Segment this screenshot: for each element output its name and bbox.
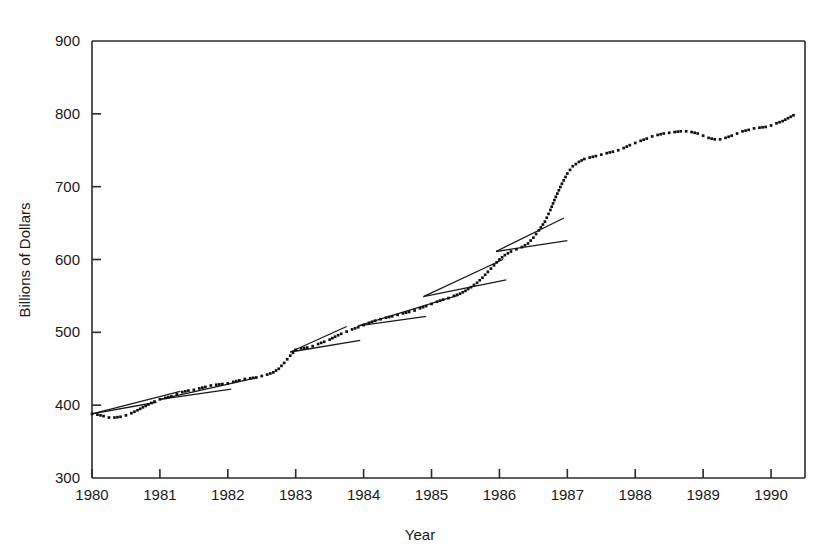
data-point-dot [133, 410, 136, 413]
data-point-dot [574, 163, 577, 166]
data-point-dot [306, 346, 309, 349]
data-point-dot [269, 372, 272, 375]
data-point-dot [294, 348, 297, 351]
data-point-dot [690, 131, 693, 134]
data-point-dot [413, 309, 416, 312]
data-point-dot [357, 326, 360, 329]
data-point-dot [362, 324, 365, 327]
data-point-dot [535, 233, 538, 236]
data-point-dot [328, 338, 331, 341]
data-point-dot [736, 132, 739, 135]
data-point-dot [515, 248, 518, 251]
data-point-dot [561, 182, 564, 185]
x-tick-label: 1988 [619, 486, 652, 503]
data-point-dot [685, 130, 688, 133]
data-point-dot [529, 239, 532, 242]
data-point-dot [442, 298, 445, 301]
data-point-dot [564, 176, 567, 179]
data-point-dot [130, 412, 133, 415]
data-point-dot [662, 132, 665, 135]
data-point-dot [537, 229, 540, 232]
data-point-dot [595, 155, 598, 158]
data-point-dot [753, 127, 756, 130]
x-tick-label: 1982 [211, 486, 244, 503]
data-point-dot [741, 130, 744, 133]
data-point-dot [99, 414, 102, 417]
data-point-dot [215, 383, 218, 386]
data-point-dot [243, 378, 246, 381]
data-point-dot [405, 311, 408, 314]
data-point-dot [617, 149, 620, 152]
data-point-dot [634, 142, 637, 145]
data-point-dot [467, 288, 470, 291]
data-point-dot [510, 250, 513, 253]
data-point-dot [520, 246, 523, 249]
data-point-dot [396, 314, 399, 317]
data-point-dot [792, 114, 795, 117]
data-point-dot [622, 147, 625, 150]
data-point-dot [532, 236, 535, 239]
data-point-dot [710, 137, 713, 140]
data-point-dot [249, 377, 252, 380]
data-point-dot [744, 129, 747, 132]
data-point-dot [591, 155, 594, 158]
data-point-dot [136, 409, 139, 412]
data-point-dot [280, 364, 283, 367]
chart-background [0, 0, 831, 552]
data-point-dot [272, 371, 275, 374]
data-point-dot [164, 397, 167, 400]
data-point-dot [571, 165, 574, 168]
data-point-dot [176, 393, 179, 396]
data-point-dot [501, 256, 504, 259]
y-tick-label: 700 [55, 178, 80, 195]
data-point-dot [439, 299, 442, 302]
data-point-dot [544, 220, 547, 223]
data-point-dot [170, 395, 173, 398]
y-tick-label: 500 [55, 323, 80, 340]
data-point-dot [566, 172, 569, 175]
data-point-dot [679, 130, 682, 133]
data-point-dot [218, 383, 221, 386]
data-point-dot [484, 273, 487, 276]
data-point-dot [562, 179, 565, 182]
data-point-dot [91, 413, 94, 416]
data-point-dot [113, 416, 116, 419]
data-point-dot [558, 189, 561, 192]
data-point-dot [493, 264, 496, 267]
data-point-dot [142, 406, 145, 409]
data-point-dot [337, 334, 340, 337]
x-axis-title: Year [405, 526, 435, 543]
data-point-dot [368, 322, 371, 325]
data-point-dot [459, 292, 462, 295]
data-point-dot [659, 133, 662, 136]
data-point-dot [402, 312, 405, 315]
y-tick-label: 800 [55, 105, 80, 122]
data-point-dot [758, 126, 761, 129]
data-point-dot [453, 295, 456, 298]
data-point-dot [625, 145, 628, 148]
data-point-dot [436, 300, 439, 303]
data-point-dot [476, 281, 479, 284]
data-point-dot [764, 126, 767, 129]
data-point-dot [292, 351, 295, 354]
data-point-dot [580, 159, 583, 162]
data-point-dot [119, 415, 122, 418]
data-point-dot [147, 403, 150, 406]
y-tick-label: 300 [55, 469, 80, 486]
data-point-dot [673, 131, 676, 134]
data-point-dot [668, 131, 671, 134]
data-point-dot [789, 115, 792, 118]
data-point-dot [139, 407, 142, 410]
data-point-dot [300, 347, 303, 350]
data-point-dot [645, 137, 648, 140]
x-tick-label: 1983 [279, 486, 312, 503]
y-tick-label: 400 [55, 396, 80, 413]
data-point-dot [388, 316, 391, 319]
data-point-dot [547, 213, 550, 216]
data-point-dot [552, 202, 555, 205]
data-point-dot [275, 369, 278, 372]
data-point-dot [181, 391, 184, 394]
data-point-dot [303, 347, 306, 350]
data-point-dot [232, 381, 235, 384]
data-point-dot [583, 158, 586, 161]
